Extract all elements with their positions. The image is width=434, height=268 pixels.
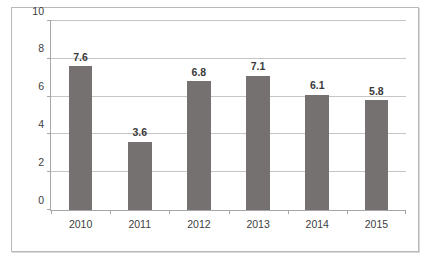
y-axis-tick-label: 0 — [38, 194, 44, 205]
bar-value-label: 7.1 — [229, 61, 288, 72]
x-axis-tick-mark — [110, 210, 111, 214]
y-axis-tick-label: 8 — [38, 43, 44, 54]
bar[interactable] — [365, 100, 389, 210]
bar-group[interactable]: 6.12014 — [288, 21, 347, 210]
bar-value-label: 6.1 — [288, 80, 347, 91]
x-axis-tick-label: 2014 — [288, 219, 347, 230]
x-axis-tick-mark — [169, 210, 170, 214]
bar-value-label: 7.6 — [51, 52, 110, 63]
bar[interactable] — [305, 95, 329, 210]
bar-value-label: 3.6 — [110, 127, 169, 138]
bar-group[interactable]: 6.82012 — [169, 21, 228, 210]
x-axis-tick-label: 2013 — [229, 219, 288, 230]
x-axis-tick-mark — [347, 210, 348, 214]
bar[interactable] — [246, 76, 270, 210]
x-axis-tick-label: 2010 — [51, 219, 110, 230]
figure-caption — [6, 257, 426, 268]
x-axis-tick-label: 2011 — [110, 219, 169, 230]
bar-group[interactable]: 7.62010 — [51, 21, 110, 210]
y-axis-tick-label: 10 — [32, 5, 44, 16]
bar[interactable] — [187, 81, 211, 210]
bar-group[interactable]: 3.62011 — [110, 21, 169, 210]
chart-frame: 0246810 7.620103.620116.820127.120136.12… — [11, 7, 419, 252]
y-axis-tick-label: 4 — [38, 119, 44, 130]
bar-group[interactable]: 7.12013 — [229, 21, 288, 210]
y-axis-tick-label: 6 — [38, 81, 44, 92]
x-axis-tick-label: 2012 — [169, 219, 228, 230]
x-axis-tick-mark — [229, 210, 230, 214]
bar[interactable] — [128, 142, 152, 210]
x-axis-tick-label: 2015 — [347, 219, 406, 230]
x-axis-tick-mark — [51, 210, 52, 214]
bar[interactable] — [69, 66, 93, 210]
x-axis-end-tick-mark — [405, 210, 406, 214]
x-axis-tick-mark — [288, 210, 289, 214]
bar-value-label: 5.8 — [347, 86, 406, 97]
y-axis-tick-label: 2 — [38, 156, 44, 167]
plot-area: 0246810 7.620103.620116.820127.120136.12… — [50, 21, 406, 211]
bar-value-label: 6.8 — [169, 67, 228, 78]
figure-container: 0246810 7.620103.620116.820127.120136.12… — [0, 0, 434, 268]
bar-group[interactable]: 5.82015 — [347, 21, 406, 210]
